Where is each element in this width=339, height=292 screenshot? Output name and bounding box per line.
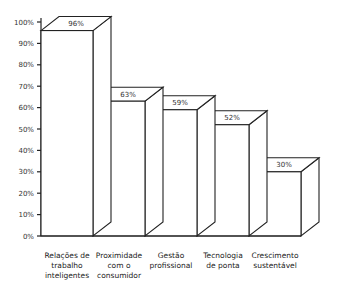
bar-side-face	[197, 96, 215, 236]
bar-front-face	[41, 31, 93, 236]
bar-side-face	[249, 111, 267, 236]
bar-chart: 0%10%20%30%40%50%60%70%80%90%100% 30%52%…	[0, 0, 339, 292]
y-tick-label: 10%	[18, 211, 34, 219]
y-tick-label: 80%	[18, 61, 34, 69]
y-tick-label: 100%	[14, 19, 34, 27]
y-tick-label: 40%	[18, 147, 34, 155]
bar-value-label: 96%	[68, 20, 84, 28]
x-category-label: Crescimentosustentável	[251, 251, 298, 270]
x-category-label: Tecnologiade ponta	[202, 251, 243, 270]
bar-side-face	[93, 17, 111, 236]
bar-value-label: 52%	[224, 114, 240, 122]
x-axis-labels: Relações detrabalhointeligentesProximida…	[44, 251, 299, 280]
bars: 30%52%59%63%96%	[41, 17, 319, 236]
bar-value-label: 59%	[172, 99, 188, 107]
x-category-label: Gestãoprofissional	[150, 251, 193, 270]
y-tick-label: 0%	[23, 233, 34, 241]
x-category-label: Relações detrabalhointeligentes	[44, 251, 90, 280]
y-axis: 0%10%20%30%40%50%60%70%80%90%100%	[14, 18, 41, 241]
bar-value-label: 30%	[276, 161, 292, 169]
bar: 96%	[41, 17, 111, 236]
y-tick-label: 30%	[18, 168, 34, 176]
y-tick-label: 20%	[18, 190, 34, 198]
y-tick-label: 50%	[18, 126, 34, 134]
x-category-label: Proximidadecom oconsumidor	[96, 251, 143, 280]
bar-side-face	[145, 87, 163, 236]
bar-value-label: 63%	[120, 91, 136, 99]
y-tick-label: 90%	[18, 40, 34, 48]
y-tick-label: 70%	[18, 83, 34, 91]
y-tick-label: 60%	[18, 104, 34, 112]
